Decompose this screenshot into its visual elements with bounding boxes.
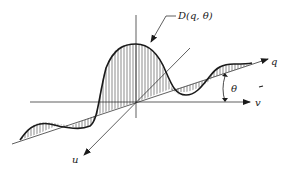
label-leader-arrow bbox=[151, 16, 176, 42]
diagram-canvas: D(q, θ) q v u θ bbox=[0, 0, 285, 171]
theta-angle-arc bbox=[223, 76, 225, 101]
function-label: D(q, θ) bbox=[177, 10, 213, 21]
q-axis-label: q bbox=[271, 56, 277, 67]
theta-label: θ bbox=[231, 83, 237, 94]
stray-mark bbox=[259, 86, 263, 87]
theta-arrow-down-icon bbox=[222, 98, 228, 102]
u-axis-label: u bbox=[72, 154, 78, 165]
v-axis-label: v bbox=[255, 97, 261, 108]
